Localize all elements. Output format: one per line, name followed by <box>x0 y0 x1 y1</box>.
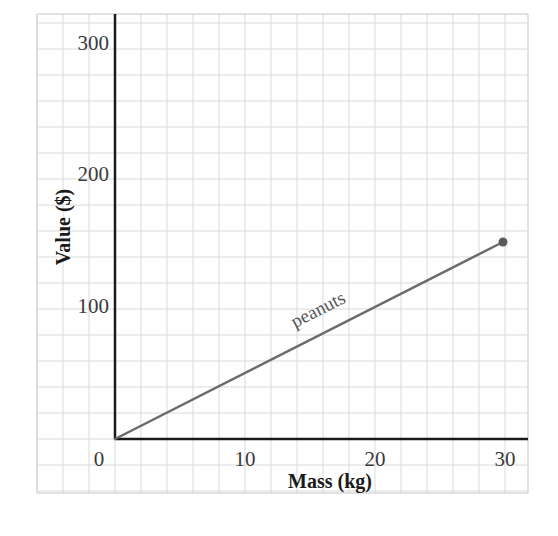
series-peanuts: peanuts <box>115 238 508 440</box>
axes <box>115 14 528 439</box>
y-axis-title: Value ($) <box>52 189 75 265</box>
series-end-marker <box>499 238 508 247</box>
x-tick-label: 0 <box>94 447 105 471</box>
x-tick-label: 10 <box>235 447 256 471</box>
series-line <box>115 242 503 439</box>
y-tick-label: 100 <box>78 294 110 318</box>
x-tick-label: 20 <box>365 447 386 471</box>
y-tick-label: 200 <box>78 162 110 186</box>
y-tick-labels: 300 200 100 <box>78 31 110 318</box>
x-tick-labels: 0 10 20 30 <box>94 447 516 471</box>
x-axis-title: Mass (kg) <box>288 470 372 493</box>
grid <box>37 14 528 493</box>
line-chart: 300 200 100 0 10 20 30 Mass (kg) Value (… <box>0 0 558 536</box>
y-tick-label: 300 <box>78 31 110 55</box>
x-tick-label: 30 <box>495 447 516 471</box>
